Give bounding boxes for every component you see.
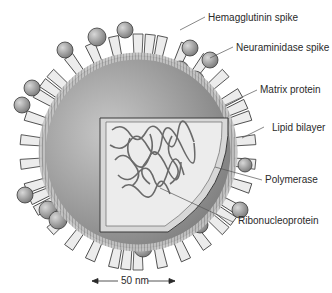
label-neuraminidase-spike: Neuraminidase spike — [236, 42, 329, 53]
label-hemagglutinin-spike: Hemagglutinin spike — [208, 12, 298, 23]
label-polymerase: Polymerase — [265, 174, 318, 185]
label-ribonucleoprotein: Ribonucleoprotein — [238, 215, 319, 226]
scale-bar-label: 50 nm — [121, 275, 149, 286]
label-matrix-protein: Matrix protein — [260, 84, 321, 95]
label-lipid-bilayer: Lipid bilayer — [272, 122, 325, 133]
virus-diagram: Hemagglutinin spike Neuraminidase spike … — [0, 0, 332, 293]
